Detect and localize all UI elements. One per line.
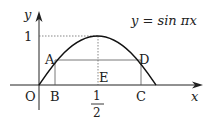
y-axis-label: y xyxy=(23,7,32,22)
point-e-label: E xyxy=(99,70,109,85)
point-d-label: D xyxy=(139,52,149,67)
equation-label: y = sin πx xyxy=(130,13,197,28)
origin-label: O xyxy=(25,89,36,104)
x-axis-label: x xyxy=(191,89,199,104)
point-b-label: B xyxy=(50,89,60,104)
x-tick-half-numerator: 1 xyxy=(93,89,101,103)
sine-diagram: y x 1 O A B C D E 1 2 y = sin πx xyxy=(0,0,211,129)
point-c-label: C xyxy=(136,89,146,104)
y-tick-one: 1 xyxy=(24,29,32,44)
point-a-label: A xyxy=(44,52,55,67)
x-tick-half-denominator: 2 xyxy=(93,106,101,120)
